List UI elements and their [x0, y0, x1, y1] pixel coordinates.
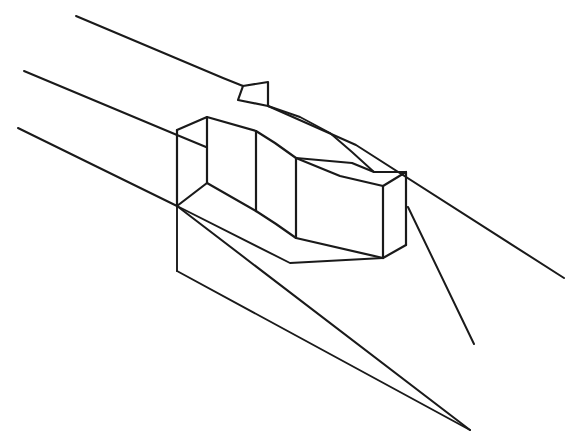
- drawing-canvas: [0, 0, 585, 444]
- paper-background: [0, 0, 585, 444]
- axonometric-line-drawing: [0, 0, 585, 444]
